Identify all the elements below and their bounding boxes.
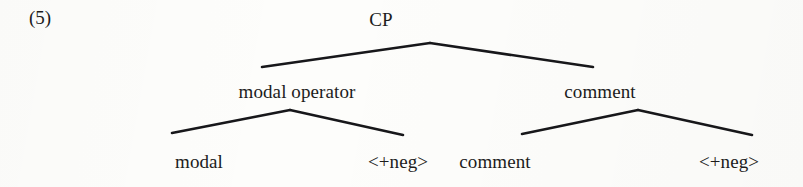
node-modal-operator: modal operator	[239, 82, 356, 101]
branch-modal-operator-right	[290, 110, 403, 135]
branch-comment-left	[522, 110, 638, 134]
branch-root-left	[262, 43, 430, 67]
node-root-cp: CP	[369, 10, 392, 29]
branch-root-right	[430, 43, 593, 67]
node-comment: comment	[564, 82, 635, 101]
example-number: (5)	[29, 8, 51, 27]
leaf-comment: comment	[459, 152, 530, 171]
branch-modal-operator-left	[172, 110, 290, 133]
figure-canvas: (5) CP modal operator comment modal <+ne…	[0, 0, 803, 187]
branch-comment-right	[638, 110, 752, 135]
leaf-neg-right: <+neg>	[699, 152, 759, 171]
leaf-modal: modal	[175, 152, 223, 171]
leaf-neg-left: <+neg>	[368, 152, 428, 171]
